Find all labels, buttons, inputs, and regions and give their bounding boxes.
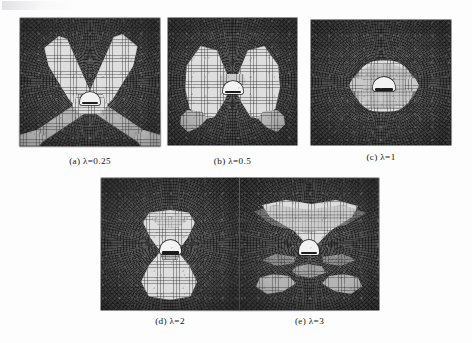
- panel-caption-b: (b) λ=0.5: [168, 156, 297, 166]
- mesh-vignette-c: [311, 20, 451, 145]
- mesh-vignette-d: [101, 178, 239, 310]
- scan-artifact: [2, 1, 76, 10]
- panel-caption-d-text: (d) λ=2: [155, 316, 185, 326]
- panel-caption-a: (a) λ=0.25: [20, 156, 160, 166]
- mesh-panel-e: [240, 178, 379, 310]
- panel-caption-c: (c) λ=1: [311, 152, 451, 162]
- panel-caption-c-text: (c) λ=1: [366, 152, 395, 162]
- panel-caption-e: (e) λ=3: [240, 316, 379, 326]
- mesh-vignette-b: [168, 18, 297, 145]
- figure-plastic-zone-mesh-plots: (a) λ=0.25 (b) λ=0.5: [0, 0, 472, 343]
- panel-caption-d: (d) λ=2: [101, 316, 239, 326]
- panel-caption-b-text: (b) λ=0.5: [214, 156, 251, 166]
- panel-caption-a-text: (a) λ=0.25: [69, 156, 111, 166]
- mesh-panel-c: [311, 20, 451, 145]
- mesh-panel-d: [101, 178, 239, 310]
- mesh-vignette-a: [20, 18, 160, 146]
- mesh-panel-a: [20, 18, 160, 146]
- mesh-panel-b: [168, 18, 297, 145]
- mesh-vignette-e: [240, 178, 379, 310]
- panel-caption-e-text: (e) λ=3: [295, 316, 324, 326]
